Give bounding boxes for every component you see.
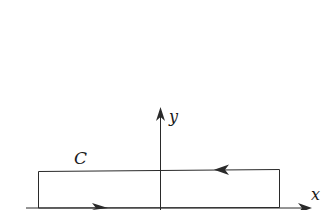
x-axis-arrow-icon [298,203,312,210]
x-axis-label: x [311,185,320,204]
contour-c [39,170,280,209]
y-axis-label: y [168,107,179,126]
right-arrow-icon [92,203,108,210]
contour-diagram: C y x [0,0,334,210]
contour-label: C [74,148,87,168]
